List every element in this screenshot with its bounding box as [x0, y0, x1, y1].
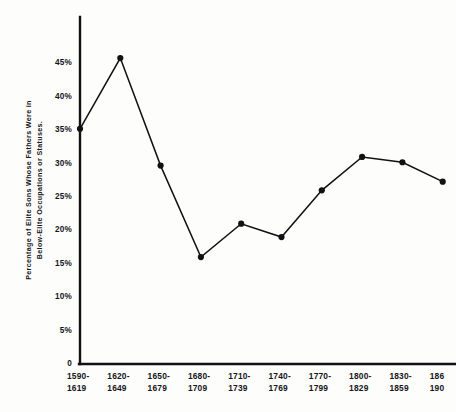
data-point-marker: 1860-1909: 27.3%	[440, 179, 446, 185]
y-tick-label: 15%	[44, 259, 72, 268]
x-tick-label-bottom: 1679	[148, 383, 170, 395]
x-tick-label-top: 1710-	[228, 371, 250, 383]
x-tick-label-top: 1830-	[389, 371, 411, 383]
x-tick-label-top: 1650-	[148, 371, 170, 383]
x-tick-label-top: 1740-	[269, 371, 291, 383]
y-tick-label: 10%	[44, 292, 72, 301]
y-tick-label: 40%	[44, 92, 72, 101]
x-tick-label-top: 1770-	[309, 371, 331, 383]
data-series-line	[80, 58, 443, 257]
data-point-marker: 1710-1739: 21%	[238, 221, 244, 227]
x-tick-label-bottom: 1619	[67, 383, 89, 395]
x-tick-label-top: 1800-	[349, 371, 371, 383]
x-tick-label: 1800-1829	[349, 371, 371, 394]
data-point-marker: 1770-1799: 26%	[319, 187, 325, 193]
y-tick-label: 35%	[44, 125, 72, 134]
x-tick-label-bottom: 1649	[107, 383, 129, 395]
x-tick-label-bottom: 190	[430, 383, 445, 395]
x-tick-label-bottom: 1799	[309, 383, 331, 395]
x-tick-label-top: 186	[430, 371, 445, 383]
y-tick-label: 25%	[44, 192, 72, 201]
data-point-marker: 1620-1649: 45.8%	[117, 55, 123, 61]
x-tick-label-bottom: 1739	[228, 383, 250, 395]
x-tick-label: 1620-1649	[107, 371, 129, 394]
y-tick-label: 0	[44, 359, 72, 368]
data-point-marker: 1650-1679: 29.7%	[158, 163, 164, 169]
x-tick-label: 1740-1769	[269, 371, 291, 394]
data-point-marker: 1590-1619: 35.2%	[77, 126, 83, 132]
data-point-marker: 1830-1859: 30.2%	[399, 159, 405, 165]
y-tick-label: 5%	[44, 326, 72, 335]
data-point-marker: 1740-1769: 19%	[278, 234, 284, 240]
x-tick-label-top: 1620-	[107, 371, 129, 383]
x-tick-label: 186190	[430, 371, 445, 394]
x-tick-label-bottom: 1859	[389, 383, 411, 395]
x-tick-label-bottom: 1709	[188, 383, 210, 395]
x-tick-label: 1590-1619	[67, 371, 89, 394]
x-tick-label-bottom: 1829	[349, 383, 371, 395]
data-point-marker: 1680-1709: 16%	[198, 254, 204, 260]
x-tick-label-top: 1680-	[188, 371, 210, 383]
x-tick-label-top: 1590-	[67, 371, 89, 383]
x-tick-label: 1710-1739	[228, 371, 250, 394]
y-tick-label: 45%	[44, 58, 72, 67]
y-tick-label: 20%	[44, 225, 72, 234]
line-chart-figure: Percentage of Elite Sons Whose Fathers W…	[0, 0, 456, 412]
y-tick-label: 30%	[44, 159, 72, 168]
x-tick-label: 1830-1859	[389, 371, 411, 394]
x-tick-label: 1770-1799	[309, 371, 331, 394]
x-tick-label: 1650-1679	[148, 371, 170, 394]
x-tick-label-bottom: 1769	[269, 383, 291, 395]
data-point-marker: 1800-1829: 31%	[359, 154, 365, 160]
x-tick-label: 1680-1709	[188, 371, 210, 394]
